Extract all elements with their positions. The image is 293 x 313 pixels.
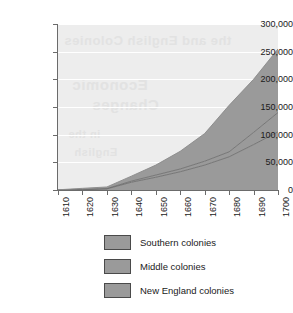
x-axis-tick-mark — [131, 191, 132, 195]
chart-legend: Southern coloniesMiddle coloniesNew Engl… — [104, 233, 234, 305]
y-axis-tick-mark — [53, 190, 57, 191]
x-axis-tick-label: 1680 — [233, 197, 242, 217]
x-axis-tick-mark — [180, 191, 181, 195]
legend-swatch — [104, 283, 131, 298]
y-axis-tick-mark — [53, 79, 57, 80]
population-area-chart: the and English Colonies Economic Change… — [0, 0, 293, 313]
y-axis-tick-label: 200,000 — [241, 75, 293, 84]
x-axis-tick-label: 1670 — [209, 197, 218, 217]
legend-swatch — [104, 259, 131, 274]
x-axis-tick-label: 1610 — [62, 197, 71, 217]
x-axis-tick-mark — [278, 191, 279, 195]
y-axis-tick-label: 300,000 — [241, 20, 293, 29]
x-axis-tick-label: 1620 — [86, 197, 95, 217]
x-axis-tick-mark — [156, 191, 157, 195]
x-axis-tick-mark — [205, 191, 206, 195]
y-axis-tick-label: 50,000 — [241, 158, 293, 167]
y-axis-tick-label: 100,000 — [241, 131, 293, 140]
x-axis-tick-label: 1640 — [135, 197, 144, 217]
x-axis-tick-mark — [82, 191, 83, 195]
y-axis-tick-mark — [53, 162, 57, 163]
x-axis-tick-mark — [107, 191, 108, 195]
legend-item[interactable]: Southern colonies — [104, 233, 234, 252]
x-axis-tick-mark — [254, 191, 255, 195]
y-axis-tick-mark — [53, 24, 57, 25]
x-axis-tick-mark — [229, 191, 230, 195]
legend-item[interactable]: Middle colonies — [104, 257, 234, 276]
y-axis-tick-label: 0 — [241, 186, 293, 195]
legend-label: Southern colonies — [140, 238, 216, 248]
y-axis-tick-mark — [53, 135, 57, 136]
legend-item[interactable]: New England colonies — [104, 281, 234, 300]
y-axis-tick-mark — [53, 107, 57, 108]
x-axis-tick-label: 1690 — [258, 197, 267, 217]
x-axis-tick-label: 1700 — [282, 197, 291, 217]
y-axis-tick-label: 150,000 — [241, 103, 293, 112]
y-axis-tick-label: 250,000 — [241, 48, 293, 57]
legend-swatch — [104, 235, 131, 250]
legend-label: New England colonies — [140, 286, 234, 296]
x-axis-tick-mark — [58, 191, 59, 195]
x-axis-tick-label: 1630 — [111, 197, 120, 217]
y-axis-line — [57, 24, 58, 191]
y-axis-tick-mark — [53, 52, 57, 53]
legend-label: Middle colonies — [140, 262, 205, 272]
x-axis-tick-label: 1660 — [184, 197, 193, 217]
x-axis-tick-label: 1650 — [160, 197, 169, 217]
